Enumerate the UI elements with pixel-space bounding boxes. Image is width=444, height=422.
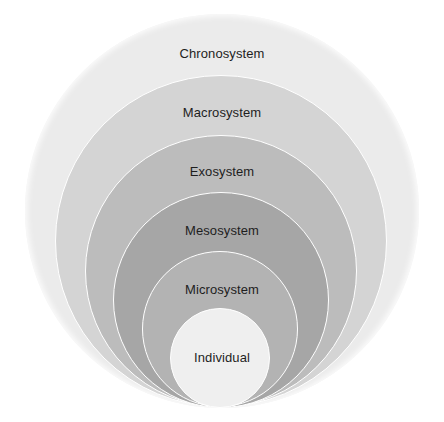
label-mesosystem: Mesosystem (0, 223, 444, 239)
nested-systems-diagram: Chronosystem Macrosystem Exosystem Mesos… (0, 0, 444, 422)
label-chronosystem: Chronosystem (0, 46, 444, 62)
label-exosystem: Exosystem (0, 164, 444, 180)
label-individual: Individual (0, 350, 444, 366)
label-macrosystem: Macrosystem (0, 105, 444, 121)
label-microsystem: Microsystem (0, 282, 444, 298)
